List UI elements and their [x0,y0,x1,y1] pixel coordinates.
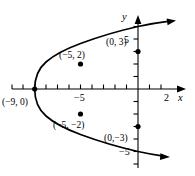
y-tick-label-neg5: −5 [119,147,130,157]
point-label-vertex: (−9, 0) [2,98,28,108]
data-point-upper-intercept [135,49,140,54]
parabola-figure: y x 5 −5 −5 2 (−9, 0) (−5, 2) (−5, −2) (… [0,0,195,176]
parabola-upper-branch [35,21,168,89]
upper-branch-arrowhead-icon [167,19,176,26]
x-axis-label: x [178,93,183,104]
point-label-lower-mid: (−5, −2) [53,121,84,131]
point-label-upper-mid: (−5, 2) [59,51,85,61]
y-axis-label: y [122,12,127,23]
y-axis-arrowhead-icon [135,15,142,24]
point-label-upper-intercept: (0, 3) [106,38,127,48]
x-axis [12,86,186,93]
x-tick-label-2: 2 [164,93,169,103]
lower-branch-arrowhead-icon [160,153,170,160]
y-axis-ticks [134,27,139,165]
x-tick-label-neg5: −5 [74,93,85,103]
data-point-lower-intercept [135,124,140,129]
point-label-lower-intercept: (0,−3) [104,134,128,144]
graph-canvas [0,0,195,176]
data-point-lower-mid [78,111,83,116]
data-point-vertex [32,86,37,91]
data-point-upper-mid [78,61,83,66]
y-axis [135,15,142,168]
